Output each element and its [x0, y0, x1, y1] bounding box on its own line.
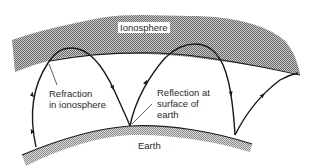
- refraction-label-line-1: Refraction: [49, 88, 106, 99]
- refraction-label: Refraction in ionosphere: [49, 88, 106, 110]
- earth-surface: [22, 126, 252, 166]
- radio-wave-path-3: [235, 73, 298, 135]
- earth-label: Earth: [138, 140, 161, 151]
- ionosphere-label: Ionosphere: [118, 22, 170, 33]
- reflection-label-line-2: surface of: [157, 98, 210, 109]
- reflection-label-line-3: earth: [157, 109, 210, 120]
- refraction-leader-line: [49, 64, 57, 85]
- reflection-label-line-1: Reflection at: [157, 87, 210, 98]
- refraction-label-line-2: in ionosphere: [49, 99, 106, 110]
- reflection-label: Reflection at surface of earth: [157, 87, 210, 120]
- arrow-icon: [32, 94, 33, 100]
